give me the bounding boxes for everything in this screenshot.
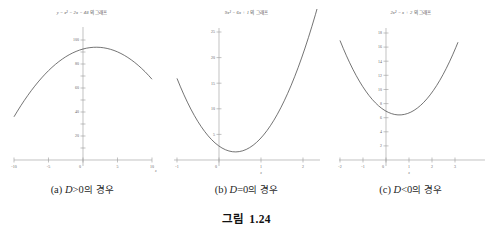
y-tick-label: 20 xyxy=(75,133,79,138)
figure-label-number: 1.24 xyxy=(249,213,271,225)
graph-panel-b: 9x² − 6x + 1 의 그래프 -1 0 1 2 xyxy=(164,0,328,178)
y-tick-label: 16 xyxy=(378,46,382,50)
x-tick-label: -1 xyxy=(361,164,364,169)
y-tick-label: 18 xyxy=(378,31,382,35)
caption-a: (a) D>0의 경우 xyxy=(0,182,164,204)
x-tick-label: 5 xyxy=(116,164,118,169)
y-tick-labels-c: 2 4 6 8 10 12 14 16 18 xyxy=(378,31,382,148)
y-tick-label: 100 xyxy=(73,38,79,43)
caption-a-symbol: D xyxy=(65,184,73,195)
x-tick-label: -10 xyxy=(11,164,16,169)
figure-1-24: y = x² − 2x − 48 의 그래프 -1 xyxy=(0,0,493,247)
caption-c-korean: 의 경우 xyxy=(412,184,442,195)
x-tick-label: -5 xyxy=(47,164,50,169)
x-tick-label: 0 xyxy=(215,164,217,169)
y-tick-label: 10 xyxy=(378,88,382,92)
figure-label: 그림 1.24 xyxy=(0,210,493,226)
y-tick-label: 6 xyxy=(380,116,382,120)
y-tick-label: 40 xyxy=(75,109,79,114)
x-tick-labels-a: -10 -5 0 5 10 xyxy=(11,164,154,169)
x-tick-label: 0 xyxy=(79,164,81,169)
caption-a-korean: 의 경우 xyxy=(84,184,114,195)
x-tick-label: 1 xyxy=(260,164,262,169)
plot-svg-a: -10 -5 0 5 10 xyxy=(0,0,164,178)
y-tick-label: 8 xyxy=(380,102,382,106)
parabola-curve-c xyxy=(340,40,458,114)
y-tick-label: 14 xyxy=(378,60,382,64)
x-tick-labels-c: -2 -1 0 1 2 3 xyxy=(338,164,456,169)
x-tick-label: -1 xyxy=(176,164,179,169)
parabola-curve-b xyxy=(177,9,317,152)
figure-label-prefix: 그림 xyxy=(222,212,245,226)
caption-row: (a) D>0의 경우 (b) D=0의 경우 (c) D<0의 경우 xyxy=(0,182,493,204)
plot-svg-b: -1 0 1 2 5 10 15 20 xyxy=(164,0,328,178)
caption-c: (c) D<0의 경우 xyxy=(329,182,493,204)
x-tick-labels-b: -1 0 1 2 xyxy=(176,164,305,169)
y-tick-label: 5 xyxy=(213,132,215,137)
x-tick-label: 1 xyxy=(408,164,410,169)
y-tick-label: 12 xyxy=(378,74,382,78)
x-axis-label-b: x xyxy=(260,171,263,175)
x-tick-label: 2 xyxy=(302,164,304,169)
caption-a-index: (a) xyxy=(51,184,63,195)
x-tick-label: 10 xyxy=(150,164,154,169)
caption-b-korean: 의 경우 xyxy=(248,184,278,195)
y-tick-label: 15 xyxy=(211,81,215,86)
x-tick-label: 0 xyxy=(382,164,384,169)
graph-panel-c: 2x² − x + 2 의 그래프 -2 -1 0 1 xyxy=(329,0,493,178)
x-tick-label: 3 xyxy=(454,164,456,169)
caption-b: (b) D=0의 경우 xyxy=(164,182,328,204)
caption-b-symbol: D xyxy=(230,184,238,195)
caption-b-index: (b) xyxy=(215,184,227,195)
plot-svg-c: -2 -1 0 1 2 3 xyxy=(329,0,493,178)
y-tick-label: 4 xyxy=(380,130,382,134)
y-tick-label: 60 xyxy=(75,85,79,90)
y-tick-label: 2 xyxy=(380,144,382,148)
x-tick-label: -2 xyxy=(338,164,341,169)
y-tick-labels-b: 5 10 15 20 25 xyxy=(211,30,215,137)
panel-row: y = x² − 2x − 48 의 그래프 -1 xyxy=(0,0,493,178)
y-tick-label: 80 xyxy=(75,62,79,67)
x-tick-label: 2 xyxy=(431,164,433,169)
y-tick-label: 20 xyxy=(211,55,215,60)
y-tick-label: 10 xyxy=(211,106,215,111)
graph-panel-a: y = x² − 2x − 48 의 그래프 -1 xyxy=(0,0,164,178)
x-axis-label-c: x xyxy=(407,171,410,175)
x-axis-label-a: x xyxy=(154,169,157,173)
y-tick-label: 25 xyxy=(211,30,215,35)
caption-c-index: (c) xyxy=(379,184,391,195)
